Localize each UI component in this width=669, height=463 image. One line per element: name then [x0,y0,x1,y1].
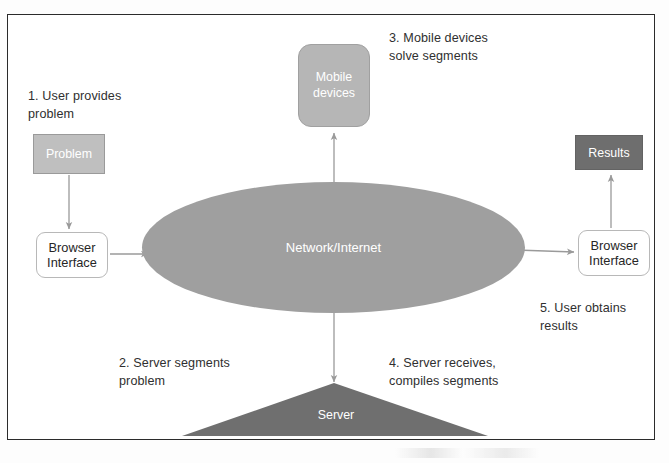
results-label: Results [588,146,629,160]
server-label: Server [296,408,376,422]
step-label-4: 4. Server receives, compiles segments [389,355,574,391]
problem-label: Problem [46,147,92,161]
network-ellipse[interactable]: Network/Internet [142,182,525,313]
browser-interface-left-label: Browser Interface [47,240,97,270]
problem-box[interactable]: Problem [33,134,105,174]
results-box[interactable]: Results [575,135,643,170]
browser-interface-right-label: Browser Interface [589,238,639,268]
mobile-devices-label: Mobile devices [313,70,355,100]
network-label: Network/Internet [286,240,381,255]
step-label-2: 2. Server segments problem [119,355,284,391]
browser-interface-left[interactable]: Browser Interface [36,232,108,278]
diagram-canvas: Problem Mobile devices Network/Internet … [0,0,669,463]
browser-interface-right[interactable]: Browser Interface [578,230,650,276]
step-label-5: 5. User obtains results [540,300,669,336]
mobile-devices-box[interactable]: Mobile devices [298,44,370,127]
step-label-3: 3. Mobile devices solve segments [389,30,564,66]
scan-artifact [395,448,595,458]
step-label-1: 1. User provides problem [28,88,178,124]
